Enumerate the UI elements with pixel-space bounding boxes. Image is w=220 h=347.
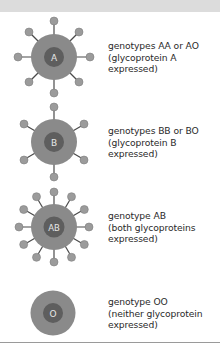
label-line: (both glycoproteins <box>108 222 220 234</box>
cell-core-label: AB <box>48 223 60 233</box>
bottom-rule <box>0 342 220 343</box>
label-line: expressed) <box>108 319 220 331</box>
cell-core-label: A <box>51 53 58 63</box>
label-line: genotypes AA or AO <box>108 40 220 52</box>
cell-b: B <box>20 103 88 181</box>
label-line: genotype AB <box>108 210 220 222</box>
cell-ab: AB <box>15 188 93 266</box>
label-genotype-b: genotypes BB or BO (glycoprotein B expre… <box>108 125 220 160</box>
label-genotype-a: genotypes AA or AO (glycoprotein A expre… <box>108 40 220 75</box>
label-line: expressed) <box>108 233 220 245</box>
label-line: genotypes BB or BO <box>108 125 220 137</box>
label-line: (neither glycoprotein <box>108 308 220 320</box>
label-line: (glycoprotein A <box>108 52 220 64</box>
label-line: expressed) <box>108 148 220 160</box>
label-line: genotype OO <box>108 296 220 308</box>
label-line: (glycoprotein B <box>108 137 220 149</box>
cell-o: O <box>31 291 76 336</box>
label-genotype-o: genotype OO (neither glycoprotein expres… <box>108 296 220 331</box>
cell-a: A <box>14 17 94 97</box>
label-line: expressed) <box>108 63 220 75</box>
cell-core-label: O <box>49 309 56 319</box>
cell-core-label: B <box>51 138 57 148</box>
label-genotype-ab: genotype AB (both glycoproteins expresse… <box>108 210 220 245</box>
